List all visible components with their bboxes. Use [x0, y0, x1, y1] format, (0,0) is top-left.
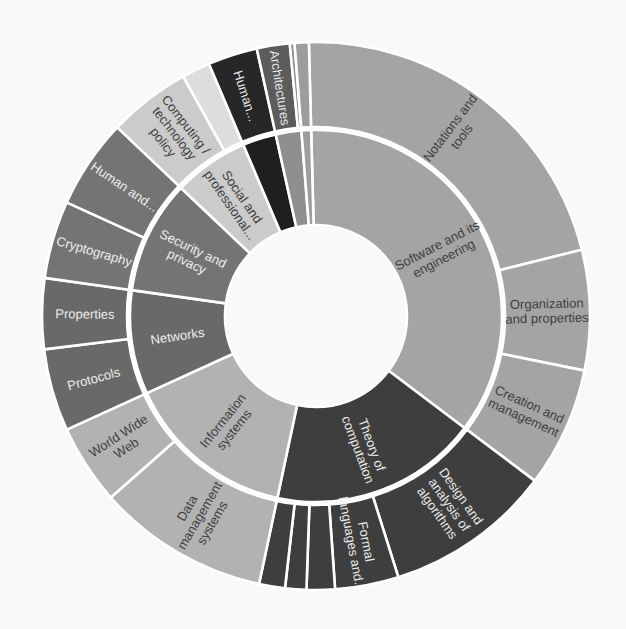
sunburst-figure: Software and itsengineeringNotations and… — [0, 0, 626, 629]
sunburst-chart: Software and itsengineeringNotations and… — [0, 0, 626, 629]
segment-outer-organization-and-properties — [499, 250, 590, 371]
segment-outer-unlabeled — [306, 505, 335, 590]
